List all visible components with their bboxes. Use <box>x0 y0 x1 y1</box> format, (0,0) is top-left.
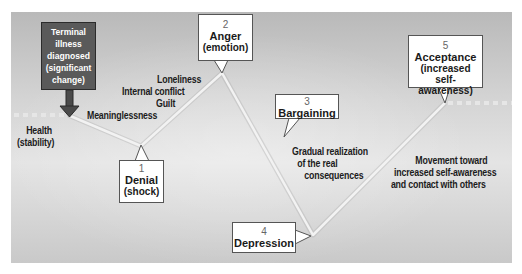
stage-number: 5 <box>409 40 482 51</box>
meaninglessness-label: Meaninglessness <box>87 110 157 122</box>
start-box-line: illness <box>45 38 93 50</box>
stage-subtitle: awareness) <box>409 85 482 96</box>
stage-title: Depression <box>233 237 295 249</box>
stage-2-anger-callout: 2 Anger (emotion) <box>198 14 253 61</box>
start-box-line: Terminal <box>45 26 93 38</box>
stage-3-bargaining-callout: 3 Bargaining <box>275 94 339 119</box>
stage-title: Anger <box>199 30 252 42</box>
health-label: Health (stability) <box>17 125 54 149</box>
stage-5-acceptance-callout: 5 Acceptance (increased self- awareness) <box>408 35 483 88</box>
start-box-line: diagnosed <box>45 50 93 62</box>
loneliness-label: Loneliness <box>157 74 201 86</box>
movement-toward-label: Movement toward increased self-awareness… <box>380 155 497 191</box>
stage-title: Denial <box>120 174 163 186</box>
health-title: Health <box>17 125 54 137</box>
start-box-line: change) <box>45 74 93 86</box>
stage-title: Bargaining <box>276 107 338 119</box>
stage-number: 1 <box>120 163 163 174</box>
stage-subtitle: (emotion) <box>199 42 252 53</box>
gradual-line-3: consequences <box>292 170 368 182</box>
health-subtitle: (stability) <box>17 137 54 149</box>
gradual-line-1: Gradual realization <box>292 146 368 158</box>
stage-subtitle: (increased self- <box>409 63 482 85</box>
stage-subtitle: (shock) <box>120 186 163 197</box>
stage-number: 2 <box>199 19 252 30</box>
terminal-illness-box: Terminal illness diagnosed (significant … <box>41 22 96 90</box>
internal-conflict-label: Internal conflict <box>122 86 185 98</box>
gradual-line-2: of the real <box>292 158 368 170</box>
stage-1-denial-callout: 1 Denial (shock) <box>119 160 164 203</box>
gradual-realization-label: Gradual realization of the real conseque… <box>292 146 368 182</box>
stage-title: Acceptance <box>409 51 482 63</box>
movement-line-1: Movement toward <box>380 155 497 167</box>
stage-number: 4 <box>233 226 295 237</box>
guilt-label: Guilt <box>156 98 175 110</box>
start-box-line: (significant <box>45 62 93 74</box>
movement-line-3: and contact with others <box>380 179 497 191</box>
down-arrow-icon <box>66 90 73 108</box>
stage-4-depression-callout: 4 Depression <box>232 222 296 253</box>
stage-number: 3 <box>276 96 338 107</box>
movement-line-2: increased self-awareness <box>380 167 497 179</box>
